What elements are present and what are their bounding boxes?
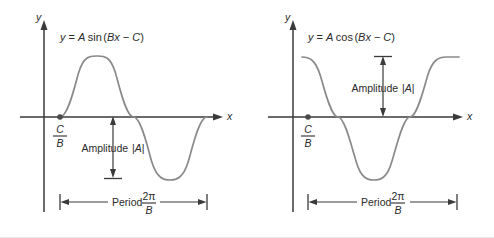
sine-period-denominator: B — [145, 204, 152, 216]
cosine-phase-denominator: B — [304, 137, 311, 149]
sine-curve — [60, 56, 207, 180]
sine-x-axis-label: x — [226, 110, 233, 122]
cosine-amplitude-text: Amplitude — [351, 82, 398, 94]
sine-eq-amplitude: A — [77, 31, 85, 43]
cosine-eq-minus: − — [374, 31, 380, 43]
sine-eq-x: x — [113, 31, 120, 43]
cosine-period-label: Period — [361, 196, 392, 208]
figure-canvas: y x y=Asin(Bx−C) C B — [0, 0, 494, 238]
sine-phase-numerator: C — [56, 123, 64, 135]
sine-equation: y=Asin(Bx−C) — [59, 31, 144, 43]
cosine-y-axis-label: y — [284, 11, 291, 23]
figure-bottom-edge — [0, 237, 494, 238]
cosine-eq-x: x — [364, 31, 371, 43]
cosine-phase-numerator: C — [304, 123, 312, 135]
cosine-eq-equals: = — [317, 31, 323, 43]
sine-eq-close-paren: ) — [140, 31, 144, 43]
cosine-eq-y: y — [307, 31, 315, 43]
sine-amplitude-text: Amplitude — [81, 142, 128, 154]
cosine-eq-amplitude: A — [325, 31, 333, 43]
sine-amplitude-label: Amplitude|A| — [81, 142, 144, 154]
sine-eq-minus: − — [123, 31, 129, 43]
cosine-curve — [302, 57, 459, 180]
sine-eq-equals: = — [69, 31, 75, 43]
cosine-period-fraction: 2π B — [391, 190, 405, 216]
sine-period-numerator: 2π — [142, 190, 155, 202]
sine-amplitude-bar-close: | — [142, 142, 145, 154]
cosine-eq-close-paren: ) — [391, 31, 395, 43]
trig-graphs-figure: y x y=Asin(Bx−C) C B — [0, 0, 494, 238]
cosine-eq-b: B — [358, 31, 365, 43]
cosine-period-numerator: 2π — [391, 190, 404, 202]
cosine-amplitude-label: Amplitude|A| — [351, 82, 414, 94]
cosine-phase-shift-fraction: C B — [301, 123, 315, 149]
cosine-period-denominator: B — [394, 204, 401, 216]
sine-phase-denominator: B — [56, 137, 63, 149]
cosine-x-axis-label: x — [466, 110, 473, 122]
sine-eq-y: y — [59, 31, 67, 43]
sine-y-axis-label: y — [35, 11, 42, 23]
cosine-amplitude-bar-close: | — [412, 82, 415, 94]
cosine-equation: y=Acos(Bx−C) — [307, 31, 395, 43]
sine-eq-function: sin — [88, 31, 102, 43]
cosine-eq-c: C — [383, 31, 391, 43]
cosine-x-axis — [268, 114, 463, 121]
sine-panel: y x y=Asin(Bx−C) C B — [20, 11, 233, 216]
sine-x-axis — [20, 114, 223, 121]
cosine-y-axis — [290, 20, 297, 212]
sine-period-fraction: 2π B — [142, 190, 156, 216]
sine-phase-shift-fraction: C B — [53, 123, 67, 149]
sine-eq-c: C — [132, 31, 140, 43]
cosine-phase-shift-dot — [305, 114, 311, 120]
sine-y-axis — [41, 20, 48, 212]
cosine-amplitude-var: A — [404, 82, 412, 94]
sine-period-label: Period — [112, 196, 143, 208]
sine-eq-b: B — [107, 31, 114, 43]
sine-amplitude-var: A — [134, 142, 142, 154]
sine-phase-shift-dot — [57, 114, 63, 120]
cosine-eq-function: cos — [336, 31, 354, 43]
cosine-panel: y x y=Acos(Bx−C) C B — [268, 11, 473, 216]
